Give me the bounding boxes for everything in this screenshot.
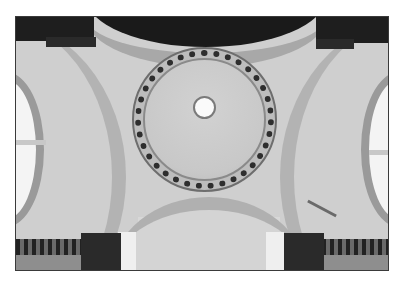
top-right-cornice-step (316, 39, 354, 49)
bottom-right-pier (284, 233, 324, 271)
ceiling-photo (15, 16, 389, 271)
bottom-left-pier (81, 233, 121, 271)
bottom-right-window-light (266, 232, 284, 271)
dome-interior (143, 58, 266, 181)
oculus (193, 96, 216, 119)
window-mullion (15, 140, 46, 145)
window-mullion (369, 150, 389, 155)
top-left-cornice-step (46, 37, 96, 47)
